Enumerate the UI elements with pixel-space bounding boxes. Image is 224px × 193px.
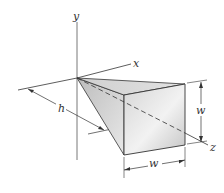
h-extension-line-left: [18, 78, 77, 90]
arrowhead-icon: [28, 89, 34, 93]
pyramid-base-face: [124, 84, 185, 155]
z-axis: [185, 133, 208, 145]
z-axis-label: z: [209, 141, 216, 154]
arrowhead-icon: [179, 160, 185, 164]
x-axis: [77, 64, 131, 78]
w-horizontal-label: w: [149, 157, 159, 170]
arrowhead-icon: [124, 167, 130, 171]
h-label: h: [58, 102, 65, 115]
w-vertical-label: w: [196, 104, 206, 117]
arrowhead-icon: [98, 126, 104, 130]
arrowhead-icon: [199, 82, 203, 88]
arrowhead-icon: [199, 136, 203, 142]
y-axis-label: y: [72, 10, 80, 23]
pyramid-diagram: z h w w y x: [0, 0, 224, 193]
x-axis-label: x: [133, 57, 140, 70]
w-ext-top: [187, 80, 207, 83]
